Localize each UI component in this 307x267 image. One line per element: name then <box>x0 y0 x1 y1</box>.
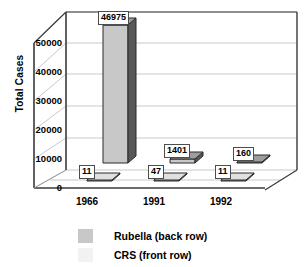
legend-label-rubella: Rubella (back row) <box>114 230 207 242</box>
y-tick-50000: 50000 <box>10 38 62 48</box>
y-tick-10000: 10000 <box>10 154 62 164</box>
x-tick-1966: 1966 <box>64 196 110 207</box>
bar-rubella-1966[interactable] <box>103 18 136 163</box>
data-label-rubella-1992: 160 <box>233 147 254 161</box>
y-tick-0: 0 <box>10 183 62 193</box>
x-tick-1991: 1991 <box>131 196 177 207</box>
y-axis-tick-labels: 50000 40000 30000 20000 10000 0 <box>0 0 62 200</box>
legend-swatch-crs <box>78 248 93 262</box>
data-label-rubella-1991: 1401 <box>164 144 190 158</box>
chart-container: Total Cases 50000 40000 30000 20000 1000… <box>0 0 307 267</box>
legend-item-crs[interactable]: CRS (front row) <box>78 245 298 264</box>
data-label-crs-1966: 11 <box>79 165 95 179</box>
y-tick-20000: 20000 <box>10 125 62 135</box>
legend-item-rubella[interactable]: Rubella (back row) <box>78 226 298 245</box>
chart-legend: Rubella (back row) CRS (front row) <box>78 226 298 264</box>
y-tick-30000: 30000 <box>10 96 62 106</box>
legend-swatch-rubella <box>78 229 93 243</box>
y-tick-40000: 40000 <box>10 67 62 77</box>
legend-label-crs: CRS (front row) <box>114 249 192 261</box>
data-label-rubella-1966: 46975 <box>98 11 129 25</box>
x-tick-1992: 1992 <box>198 196 244 207</box>
data-label-crs-1991: 47 <box>148 165 164 179</box>
data-label-crs-1992: 11 <box>215 165 231 179</box>
